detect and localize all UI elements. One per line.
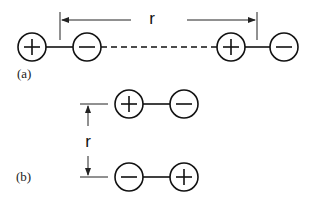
dipole-diagram: r (a) r <box>0 0 309 198</box>
distance-label-b: r <box>85 132 91 151</box>
distance-label-a: r <box>149 9 155 28</box>
part-b-label: (b) <box>16 169 31 184</box>
part-a: r (a) <box>17 9 298 81</box>
part-b: r (b) <box>16 90 198 191</box>
part-a-label: (a) <box>17 66 31 81</box>
